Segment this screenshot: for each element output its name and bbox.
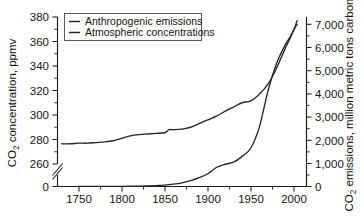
- x-tick-label-1800: 1800: [109, 193, 135, 205]
- left-tick-label-zero: 0: [43, 181, 49, 193]
- chart-legend: Anthropogenic emissions Atmospheric conc…: [65, 14, 215, 41]
- right-tick-label-2000: 2,000: [315, 135, 344, 147]
- right-tick-label-6000: 6,000: [315, 42, 344, 54]
- left-axis-title-suffix: concentration, ppmv: [6, 38, 18, 145]
- right-tick-label-7000: 7,000: [315, 19, 344, 31]
- right-tick-label-1000: 1,000: [315, 158, 344, 170]
- x-tick-label-2000: 2000: [281, 193, 307, 205]
- left-tick-label-340: 340: [30, 60, 49, 72]
- left-tick-label-280: 280: [30, 134, 49, 146]
- x-tick-label-1850: 1850: [152, 193, 178, 205]
- x-tick-label-1900: 1900: [195, 193, 221, 205]
- left-tick-label-260: 260: [30, 158, 49, 170]
- co2-chart-figure: 380 360 340 320 300 280 260 0 CO2 concen…: [0, 0, 364, 223]
- right-tick-label-0: 0: [315, 181, 321, 193]
- right-tick-label-5000: 5,000: [315, 65, 344, 77]
- legend-label-concentrations: Atmospheric concentrations: [85, 26, 215, 38]
- left-tick-label-360: 360: [30, 36, 49, 48]
- x-tick-label-1750: 1750: [66, 193, 92, 205]
- right-tick-label-4000: 4,000: [315, 88, 344, 100]
- left-axis-title-prefix: CO: [6, 150, 18, 167]
- left-tick-label-300: 300: [30, 109, 49, 121]
- chart-svg: 380 360 340 320 300 280 260 0 CO2 concen…: [0, 0, 364, 223]
- left-tick-label-320: 320: [30, 85, 49, 97]
- right-axis-title-prefix: CO: [343, 194, 355, 211]
- right-axis-title-suffix: emissions, million metric tons carbon: [343, 0, 355, 190]
- right-tick-label-3000: 3,000: [315, 111, 344, 123]
- left-tick-label-380: 380: [30, 11, 49, 23]
- x-tick-label-1950: 1950: [238, 193, 264, 205]
